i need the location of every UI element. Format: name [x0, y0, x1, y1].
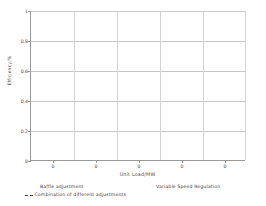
y-tick-label: 0.8 [21, 39, 28, 44]
y-tick-mark [28, 131, 31, 132]
gridline-vertical [245, 11, 246, 160]
y-tick-mark [28, 41, 31, 42]
y-tick-label: 0 [25, 159, 28, 164]
x-tick-mark [139, 160, 140, 163]
gridline-horizontal [31, 41, 245, 42]
legend-row-bottom: Combination of different adjustments [25, 192, 126, 197]
x-tick-mark [182, 160, 183, 163]
gridline-vertical [117, 11, 118, 160]
gridline-horizontal [31, 11, 245, 12]
x-tick-mark [96, 160, 97, 163]
gridline-vertical [160, 11, 161, 160]
legend-item-baffle-adjustment: Baffle adjustment [40, 184, 83, 189]
legend-item-combination-of-adjustments: Combination of different adjustments [35, 192, 127, 197]
chart-figure: Efficiency/% 1 0.8 0.6 0.4 0.2 0 0 0 [0, 0, 266, 206]
y-tick-mark [28, 101, 31, 102]
x-tick-mark [53, 160, 54, 163]
x-tick-label: 0 [224, 164, 227, 169]
legend-item-variable-speed-regulation: Variable Speed Regulation [156, 184, 220, 189]
x-tick-label: 0 [52, 164, 55, 169]
y-tick-mark [28, 11, 31, 12]
y-tick-label: 1 [25, 9, 28, 14]
gridline-horizontal [31, 71, 245, 72]
gridline-horizontal [31, 131, 245, 132]
x-tick-label: 0 [95, 164, 98, 169]
x-axis-title: Unit Load/MW [30, 172, 245, 177]
dashed-line-swatch-icon [25, 195, 33, 196]
y-tick-mark [28, 71, 31, 72]
y-tick-label: 0.4 [21, 99, 28, 104]
x-tick-label: 0 [138, 164, 141, 169]
y-tick-label: 0.2 [21, 129, 28, 134]
y-tick-label: 0.6 [21, 69, 28, 74]
x-tick-label: 0 [181, 164, 184, 169]
gridline-horizontal [31, 101, 245, 102]
y-axis-title: Efficiency/% [7, 41, 12, 101]
y-tick-mark [28, 161, 31, 162]
gridline-vertical [74, 11, 75, 160]
plot-area: 1 0.8 0.6 0.4 0.2 0 0 0 0 0 0 [30, 11, 245, 161]
gridline-vertical [203, 11, 204, 160]
legend-row-top: Baffle adjustment Variable Speed Regulat… [0, 183, 266, 192]
chart-legend: Baffle adjustment Variable Speed Regulat… [0, 183, 266, 206]
x-tick-mark [225, 160, 226, 163]
